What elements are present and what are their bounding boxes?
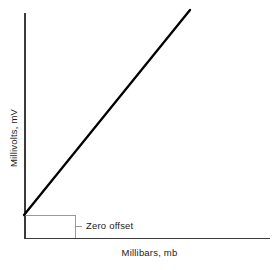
response-curve [24, 10, 190, 215]
zero-offset-annotation-label: Zero offset [86, 221, 133, 231]
y-axis-label-text: Millivolts, mV [9, 109, 19, 167]
y-axis-label: Millivolts, mV [0, 98, 28, 178]
figure-canvas: Millivolts, mV Millibars, mb Zero offset [0, 0, 275, 270]
x-axis-label: Millibars, mb [0, 248, 275, 258]
x-axis-label-text: Millibars, mb [98, 248, 178, 258]
plot-area [0, 0, 275, 270]
